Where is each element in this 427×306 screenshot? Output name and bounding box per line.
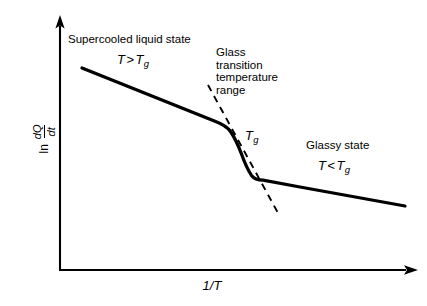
- glass-transition-range-label: Glass transition temperature range: [216, 46, 278, 96]
- glassy-condition-label: T<Tg: [318, 158, 350, 175]
- glassy-state-label: Glassy state: [306, 138, 369, 152]
- x-axis-label: 1/T: [203, 278, 222, 294]
- tg-marker-label: Tg: [245, 128, 258, 145]
- x-axis-arrowhead: [404, 265, 418, 275]
- y-axis-label-ln: ln: [37, 141, 51, 153]
- supercooled-condition-var: T: [117, 52, 125, 67]
- tg-marker-subscript: g: [253, 134, 258, 145]
- supercooled-condition-ref: T: [136, 52, 144, 67]
- y-axis-label-denominator: dt: [44, 125, 57, 138]
- y-axis-label-fraction: dQ dt: [32, 122, 57, 141]
- x-axis: [59, 265, 418, 275]
- y-axis-label-numerator: dQ: [32, 122, 44, 141]
- glassy-condition-ref-subscript: g: [345, 164, 350, 175]
- supercooled-condition-operator: >: [125, 52, 136, 67]
- glass-transition-line-3: temperature: [216, 71, 278, 84]
- glass-transition-line-1: Glass: [216, 46, 278, 59]
- glassy-condition-ref: T: [337, 158, 345, 173]
- supercooled-condition-ref-subscript: g: [144, 58, 149, 69]
- supercooled-liquid-state-label: Supercooled liquid state: [68, 32, 191, 46]
- y-axis-label: ln dQ dt: [14, 108, 74, 168]
- glassy-condition-operator: <: [326, 158, 337, 173]
- glass-transition-figure: Supercooled liquid state T>Tg Glass tran…: [0, 0, 427, 306]
- glass-transition-line-4: range: [216, 84, 278, 97]
- tg-marker-var: T: [245, 128, 253, 143]
- glass-transition-tangent-line: [208, 85, 278, 213]
- supercooled-condition-label: T>Tg: [117, 52, 149, 69]
- glass-transition-line-2: transition: [216, 59, 278, 72]
- glassy-condition-var: T: [318, 158, 326, 173]
